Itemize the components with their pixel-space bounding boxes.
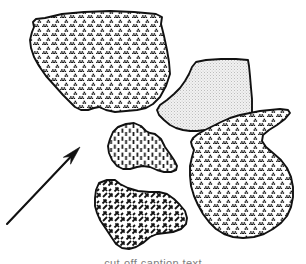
region-map-figure — [0, 0, 306, 264]
regions-layer — [30, 11, 293, 249]
arrow-shaft — [7, 154, 73, 224]
region-center-small[interactable] — [108, 123, 177, 172]
annotation-arrow[interactable] — [7, 147, 80, 224]
region-lower-middle-group — [95, 180, 187, 249]
figure-root: cut-off caption text — [0, 0, 306, 264]
caption-fragment: cut-off caption text — [0, 257, 306, 264]
region-upper-left[interactable] — [30, 11, 170, 112]
